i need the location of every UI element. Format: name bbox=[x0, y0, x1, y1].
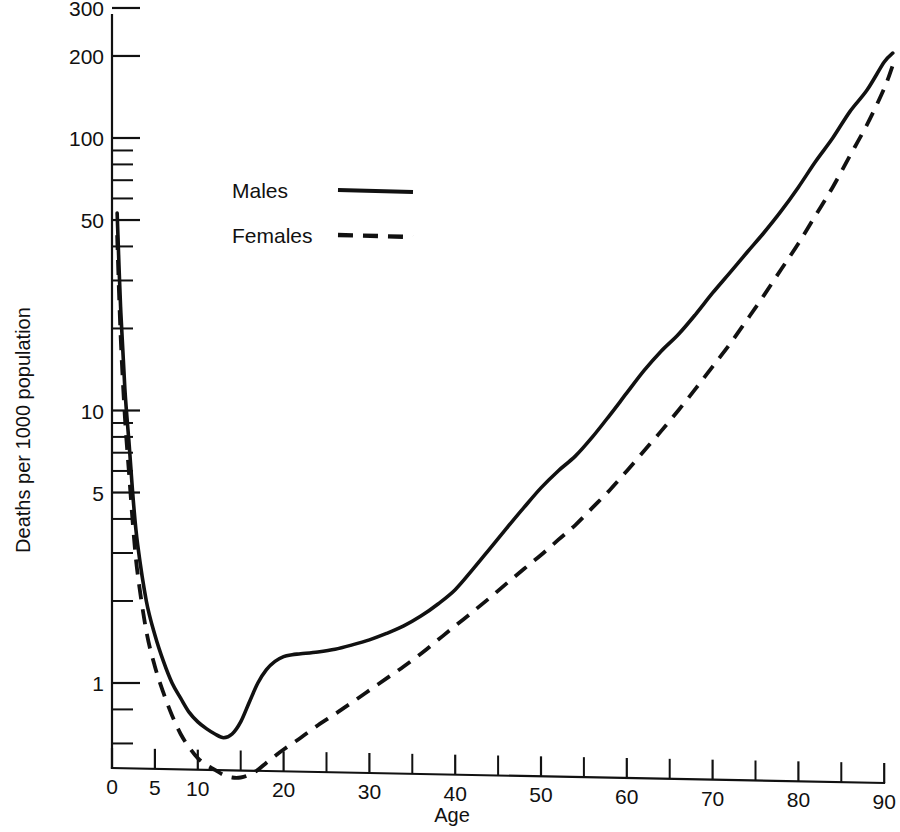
y-tick-label-200: 200 bbox=[69, 45, 104, 68]
legend: Males Females bbox=[232, 179, 413, 247]
x-tick-label-5: 5 bbox=[149, 776, 161, 799]
x-axis-group: 05102030405060708090 bbox=[106, 748, 896, 813]
x-tick-label-40: 40 bbox=[444, 782, 467, 805]
x-tick-label-30: 30 bbox=[358, 780, 381, 803]
y-tick-label-300: 300 bbox=[69, 0, 104, 20]
series-line-males bbox=[117, 53, 893, 738]
x-tick-label-60: 60 bbox=[615, 785, 638, 808]
y-axis-title: Deaths per 1000 population bbox=[12, 307, 34, 553]
y-tick-label-5: 5 bbox=[92, 482, 104, 505]
y-axis-group: 151050100200300 bbox=[69, 0, 140, 768]
legend-label-males: Males bbox=[232, 179, 288, 202]
legend-swatch-females bbox=[338, 235, 413, 237]
y-tick-label-50: 50 bbox=[81, 209, 104, 232]
x-tick-label-0: 0 bbox=[106, 775, 118, 798]
x-tick-label-10: 10 bbox=[186, 777, 209, 800]
x-axis-title: Age bbox=[434, 804, 470, 826]
x-tick-label-20: 20 bbox=[272, 778, 295, 801]
y-tick-label-100: 100 bbox=[69, 127, 104, 150]
y-axis-tick-labels: 151050100200300 bbox=[69, 0, 104, 695]
chart-figure: 151050100200300 05102030405060708090 Age… bbox=[0, 0, 900, 832]
x-tick-label-90: 90 bbox=[873, 790, 896, 813]
y-axis-major-ticks bbox=[112, 8, 140, 683]
x-tick-label-80: 80 bbox=[787, 788, 810, 811]
legend-swatch-males bbox=[338, 190, 413, 192]
mortality-log-chart: 151050100200300 05102030405060708090 Age… bbox=[0, 0, 900, 832]
y-tick-label-10: 10 bbox=[81, 400, 104, 423]
series-group bbox=[117, 53, 893, 778]
legend-label-females: Females bbox=[232, 224, 313, 247]
series-line-females bbox=[117, 65, 893, 778]
x-tick-label-50: 50 bbox=[529, 783, 552, 806]
x-tick-label-70: 70 bbox=[701, 787, 724, 810]
y-tick-label-1: 1 bbox=[92, 672, 104, 695]
